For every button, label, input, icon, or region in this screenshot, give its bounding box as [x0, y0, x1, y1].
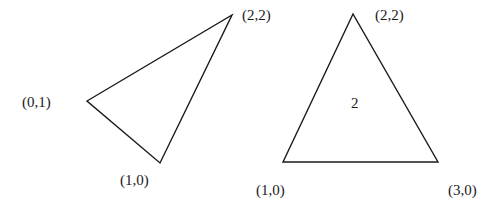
right-triangle [283, 14, 438, 162]
triangles-drawing [0, 0, 493, 211]
right-triangle-center-label: 2 [351, 96, 359, 111]
right-triangle-top-vertex-label: (2,2) [375, 8, 404, 23]
right-triangle-bottom-left-vertex-label: (1,0) [256, 183, 285, 198]
left-triangle [87, 15, 232, 163]
left-triangle-top-vertex-label: (2,2) [242, 8, 271, 23]
left-triangle-bottom-vertex-label: (1,0) [120, 173, 149, 188]
left-triangle-left-vertex-label: (0,1) [22, 95, 51, 110]
diagram-canvas: (2,2) (0,1) (1,0) (2,2) 2 (1,0) (3,0) [0, 0, 493, 211]
right-triangle-bottom-right-vertex-label: (3,0) [448, 183, 477, 198]
